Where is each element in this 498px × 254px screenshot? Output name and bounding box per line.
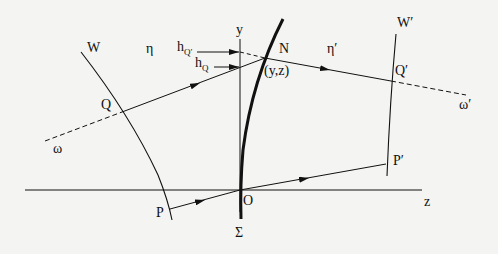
label-w: W <box>87 41 100 55</box>
ray-p-to-o <box>170 190 240 209</box>
label-o: O <box>243 194 253 208</box>
label-q-prime: Q′ <box>395 64 408 78</box>
label-h-q-prime-sub: Q′ <box>184 47 192 57</box>
label-h: h <box>177 39 184 54</box>
label-z-axis: z <box>424 195 430 209</box>
ray-hq-prime-dashed <box>240 52 265 58</box>
label-omega: ω <box>53 142 62 156</box>
label-p: P <box>156 206 164 220</box>
label-h-q-prime: hQ′ <box>177 40 192 54</box>
label-w-prime: W′ <box>397 16 413 30</box>
label-y-axis: y <box>236 23 243 37</box>
label-omega-prime: ω′ <box>459 98 471 112</box>
label-p-prime: P′ <box>393 154 404 168</box>
label-q: Q <box>101 98 111 112</box>
ray-omega-prime-dashed <box>391 81 466 95</box>
wavefront-w-curve <box>81 52 172 220</box>
label-n: N <box>279 42 289 56</box>
label-sigma: Σ <box>235 226 243 240</box>
label-eta: η <box>146 42 153 56</box>
label-eta-prime: η′ <box>327 42 337 56</box>
label-point-yz: (y,z) <box>264 64 289 78</box>
ray-omega-dashed <box>45 112 122 141</box>
ray-q-to-n <box>122 58 265 112</box>
label-h-q-sub: Q <box>202 63 209 73</box>
label-h-q: hQ <box>195 56 209 70</box>
diagram-lines <box>0 0 498 254</box>
wavefront-refraction-diagram: W η hQ′ hQ y N (y,z) η′ W′ Q′ ω′ Q ω P O… <box>0 0 498 254</box>
ray-o-to-p-prime <box>240 164 386 190</box>
label-h: h <box>195 55 202 70</box>
